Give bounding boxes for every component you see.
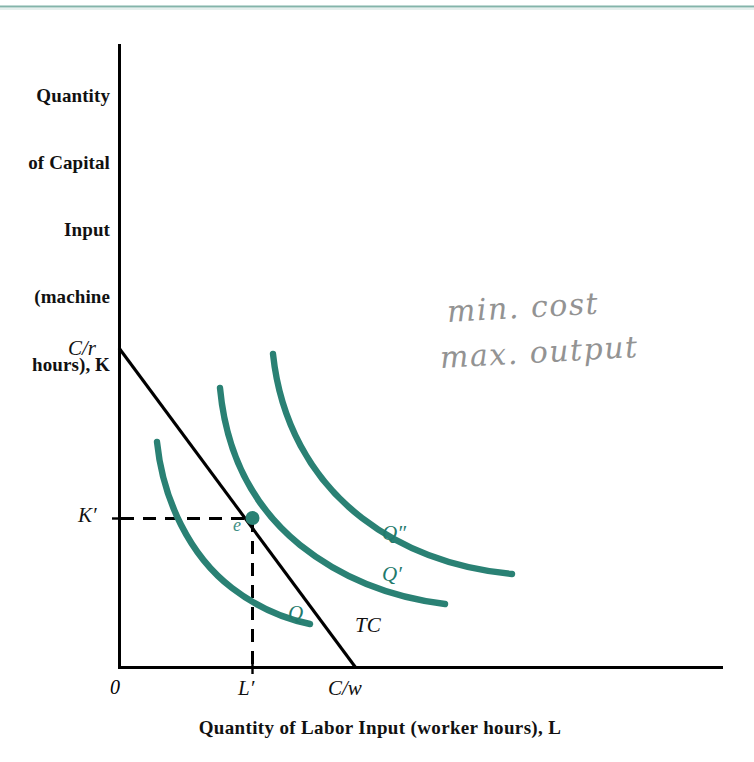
x-tick-label-l-prime: L′ xyxy=(238,676,254,701)
y-axis-title-line-2: of Capital xyxy=(0,152,110,174)
figure-canvas xyxy=(0,0,754,762)
isoquant-label-q: Q xyxy=(288,601,303,626)
tangency-point-e xyxy=(246,511,260,525)
isocost-line-tc xyxy=(119,348,356,668)
isoquant-label-q-double-prime: Q″ xyxy=(382,521,406,546)
isocost-label-tc: TC xyxy=(355,613,381,638)
figure-container: Quantity of Capital Input (machine hours… xyxy=(0,0,754,762)
y-tick-label-k-prime: K′ xyxy=(78,503,97,528)
y-axis-title-line-1: Quantity xyxy=(0,85,110,107)
y-axis-title: Quantity of Capital Input (machine hours… xyxy=(0,40,110,421)
x-axis-caption: Quantity of Labor Input (worker hours), … xyxy=(60,717,700,739)
x-tick-label-c-over-w: C/w xyxy=(328,676,362,701)
y-axis-title-line-4: (machine xyxy=(0,286,110,308)
y-tick-label-c-over-r: C/r xyxy=(68,336,96,361)
isoquant-label-q-prime: Q′ xyxy=(382,562,402,587)
tangency-point-label-e: e xyxy=(233,515,241,536)
y-axis-title-line-3: Input xyxy=(0,219,110,241)
origin-label: 0 xyxy=(110,676,120,700)
